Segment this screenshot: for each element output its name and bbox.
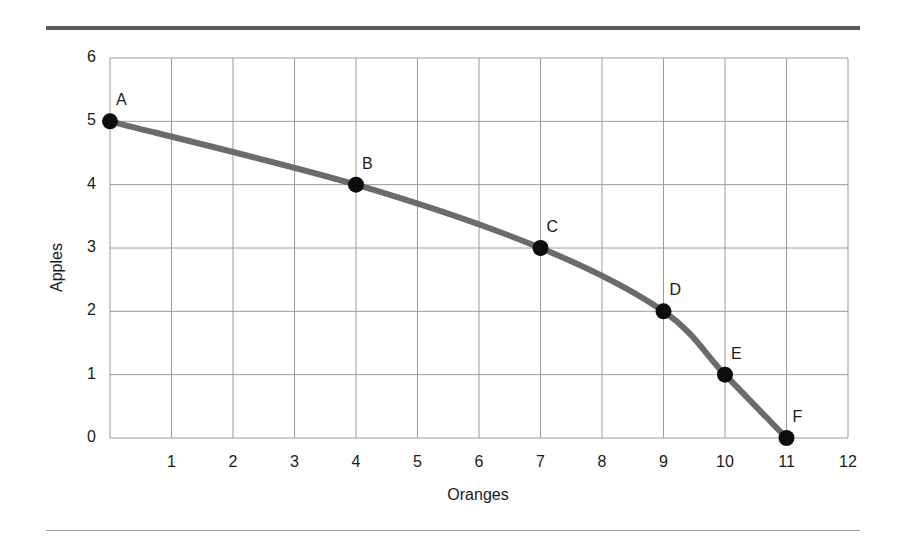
point-label-a: A xyxy=(116,91,127,109)
x-axis-title: Oranges xyxy=(0,486,910,504)
x-tick-label: 5 xyxy=(398,453,438,471)
data-point-marker xyxy=(656,303,672,319)
y-tick-label: 0 xyxy=(62,428,96,446)
x-tick-label: 8 xyxy=(582,453,622,471)
data-line-curve xyxy=(110,121,787,438)
point-label-c: C xyxy=(547,218,559,236)
x-tick-label: 12 xyxy=(828,453,868,471)
chart-figure: Apples Oranges 123456789101112 0123456 A… xyxy=(0,0,910,551)
data-point-marker xyxy=(102,113,118,129)
y-tick-label: 1 xyxy=(62,365,96,383)
point-label-e: E xyxy=(731,345,742,363)
y-tick-label: 4 xyxy=(62,175,96,193)
data-point-marker xyxy=(779,430,795,446)
point-label-f: F xyxy=(793,408,803,426)
x-tick-label: 9 xyxy=(644,453,684,471)
y-tick-label: 6 xyxy=(62,48,96,66)
y-tick-label: 2 xyxy=(62,301,96,319)
data-point-marker xyxy=(533,240,549,256)
data-point-marker xyxy=(348,177,364,193)
x-tick-label: 4 xyxy=(336,453,376,471)
x-tick-label: 10 xyxy=(705,453,745,471)
data-point-markers xyxy=(102,113,795,446)
x-tick-label: 6 xyxy=(459,453,499,471)
x-tick-label: 2 xyxy=(213,453,253,471)
point-label-d: D xyxy=(670,281,682,299)
x-tick-label: 7 xyxy=(521,453,561,471)
data-point-marker xyxy=(717,367,733,383)
x-tick-label: 1 xyxy=(152,453,192,471)
x-tick-label: 3 xyxy=(275,453,315,471)
y-tick-label: 5 xyxy=(62,111,96,129)
x-tick-label: 11 xyxy=(767,453,807,471)
y-tick-label: 3 xyxy=(62,238,96,256)
point-label-b: B xyxy=(362,155,373,173)
